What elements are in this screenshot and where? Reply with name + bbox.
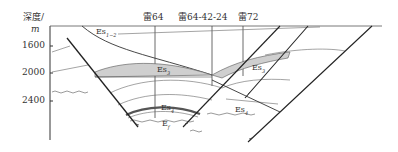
axis-tick-1600: 1600 bbox=[22, 41, 45, 50]
formation-sub: 4 bbox=[245, 110, 248, 116]
axis-tick-2000: 2000 bbox=[22, 68, 45, 77]
formation-label-es12: Es1−2 bbox=[96, 28, 117, 38]
fault-tick-2 bbox=[185, 123, 188, 124]
formation-sub: f bbox=[168, 124, 170, 130]
left-unconformity bbox=[52, 91, 88, 93]
formation-base: Es bbox=[96, 27, 106, 36]
right-arc-1 bbox=[222, 79, 290, 88]
axis-unit: m bbox=[31, 25, 40, 34]
well-label-lei72: 雷72 bbox=[238, 13, 258, 22]
es12-label-leader bbox=[118, 27, 320, 34]
well-label-lei64-42-24: 雷64-42-24 bbox=[178, 13, 227, 22]
formation-sub: 3 bbox=[262, 68, 265, 74]
formation-label-es3-right: Es3 bbox=[252, 64, 265, 74]
geologic-cross-section bbox=[0, 0, 398, 152]
formation-base: Es bbox=[161, 103, 171, 112]
fault-left bbox=[67, 38, 138, 127]
axis-title: 深度/ bbox=[23, 13, 44, 22]
formation-base: Es bbox=[157, 65, 167, 74]
right-unconformity bbox=[190, 130, 202, 132]
formation-label-es4-center: Es4 bbox=[161, 104, 174, 114]
formation-base: Es bbox=[252, 63, 262, 72]
fault-center-right bbox=[183, 26, 280, 127]
formation-sub: 3 bbox=[167, 70, 170, 76]
es3-shaded-body bbox=[95, 63, 212, 77]
formation-label-ef: Ef bbox=[162, 120, 170, 130]
well-label-lei64: 雷64 bbox=[143, 13, 163, 22]
left-stratum-1 bbox=[52, 46, 70, 52]
formation-label-es3: Es3 bbox=[157, 66, 170, 76]
fault-right bbox=[248, 26, 372, 142]
formation-sub: 1−2 bbox=[106, 32, 117, 38]
formation-base: Es bbox=[235, 105, 245, 114]
axis-tick-2400: 2400 bbox=[22, 96, 45, 105]
formation-label-es4-right: Es4 bbox=[235, 106, 248, 116]
arc-1 bbox=[110, 80, 222, 93]
es4-right-top bbox=[226, 99, 278, 104]
formation-sub: 4 bbox=[171, 108, 174, 114]
left-stratum-2 bbox=[52, 65, 88, 72]
